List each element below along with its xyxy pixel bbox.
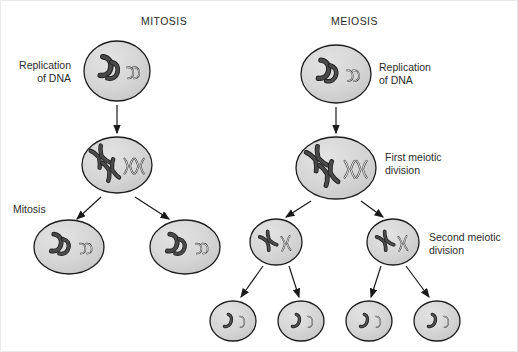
arrow-mit-a3	[135, 197, 169, 219]
label-mitosis-division: Mitosis	[13, 203, 73, 216]
arrow-mei-a7	[406, 266, 429, 297]
label-meiosis-replication: Replication of DNA	[379, 61, 463, 86]
cell-mei-second-r	[367, 219, 419, 265]
cell-membrane	[210, 301, 256, 341]
cell-mei-second-l	[250, 219, 302, 265]
cell-membrane	[367, 219, 419, 265]
cell-membrane	[250, 219, 302, 265]
arrow-mit-a2	[77, 197, 101, 219]
cell-mit-daughter-2	[150, 220, 220, 274]
cell-mei-gamete-1	[210, 301, 256, 341]
cell-mei-parent	[301, 45, 371, 103]
arrow-mei-a3	[361, 201, 383, 217]
cell-mit-parent	[84, 41, 150, 101]
cell-mei-gamete-2	[278, 301, 324, 341]
cell-membrane	[278, 301, 324, 341]
arrow-mei-a5	[289, 266, 299, 297]
cell-mei-gamete-4	[414, 301, 460, 341]
cell-mit-daughter-1	[34, 220, 104, 274]
label-meiosis-first: First meiotic division	[385, 151, 471, 176]
cell-mei-first	[296, 137, 376, 199]
cell-layer	[34, 41, 460, 341]
arrow-layer	[77, 105, 429, 297]
arrow-mei-a6	[371, 266, 381, 297]
label-meiosis-second: Second meiotic division	[429, 231, 518, 256]
arrow-mei-a4	[241, 266, 263, 297]
cell-membrane	[414, 301, 460, 341]
cell-mei-gamete-3	[346, 301, 392, 341]
cell-mit-replicated	[82, 137, 152, 193]
arrow-mei-a2	[286, 201, 311, 217]
title-mitosis: MITOSIS	[141, 15, 187, 28]
mitosis-meiosis-figure	[1, 1, 518, 352]
label-mitosis-replication: Replication of DNA	[5, 59, 71, 84]
diagram-canvas: Replication of DNAMitosisReplication of …	[0, 0, 518, 352]
title-meiosis: MEIOSIS	[331, 15, 378, 28]
cell-membrane	[346, 301, 392, 341]
